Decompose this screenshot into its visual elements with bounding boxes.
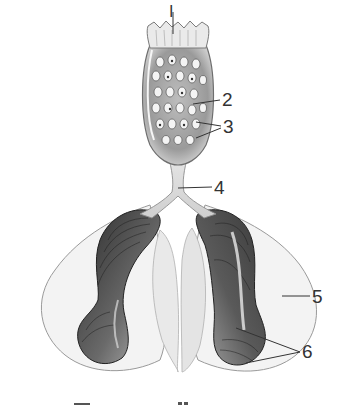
callout-label-6: 6 [302, 342, 313, 361]
callout-label-3: 3 [223, 117, 234, 136]
capsule-rim [147, 21, 209, 48]
capsule [143, 45, 214, 165]
callout-label-5: 5 [312, 287, 323, 306]
callout-label-4: 4 [214, 178, 225, 197]
callout-label-1: I [169, 4, 173, 20]
callout-label-2: 2 [222, 90, 233, 109]
caption-fragment [74, 402, 188, 405]
